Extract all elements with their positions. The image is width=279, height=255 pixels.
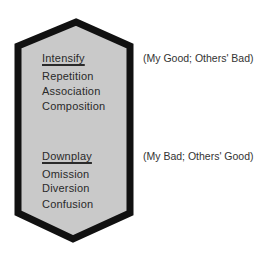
- downplay-note: (My Bad; Others' Good): [143, 150, 254, 162]
- downplay-heading: Downplay: [42, 150, 92, 162]
- intensify-heading: Intensify: [42, 52, 85, 64]
- hexagon-arrow-shape: [0, 0, 279, 255]
- downplay-item: Diversion: [42, 182, 90, 194]
- downplay-item: Confusion: [42, 198, 93, 210]
- intensify-item: Repetition: [42, 70, 94, 82]
- downplay-item: Omission: [42, 168, 89, 180]
- intensify-note: (My Good; Others' Bad): [143, 52, 254, 64]
- intensify-item: Composition: [42, 100, 105, 112]
- intensify-item: Association: [42, 85, 100, 97]
